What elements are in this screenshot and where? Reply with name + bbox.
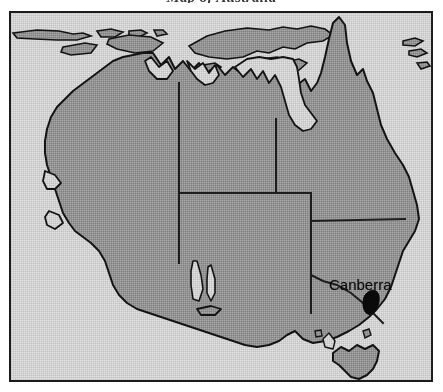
map-figure: Map of Australia [0, 0, 443, 392]
australia-map-graphic [11, 13, 431, 380]
island-king [315, 330, 322, 337]
canberra-city-label: Canberra [329, 276, 392, 293]
map-frame: Canberra [9, 11, 433, 382]
figure-title-remnant: Map of Australia [0, 0, 443, 3]
kangaroo-island [197, 306, 221, 315]
